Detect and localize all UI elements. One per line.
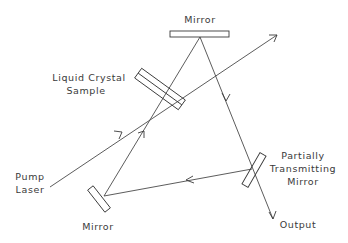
- pt-mirror-label-line1: Partially: [281, 150, 325, 161]
- pt-mirror-label-line2: Transmitting: [269, 163, 336, 174]
- optical-cavity-diagram: Mirror Liquid Crystal Sample Pump Laser …: [0, 0, 348, 243]
- crystal-label-line1: Liquid Crystal: [52, 72, 125, 83]
- bottom-mirror-label: Mirror: [82, 221, 114, 232]
- beam-top-to-output: [200, 37, 276, 219]
- pt-mirror-label-line3: Mirror: [287, 176, 319, 187]
- beam-crystal-top-mirror: [104, 37, 200, 196]
- pump-beam: [50, 35, 277, 187]
- output-label: Output: [280, 219, 317, 230]
- beam-pt-to-bottom: [104, 169, 252, 196]
- pump-label-line1: Pump: [15, 171, 44, 182]
- top-mirror-label: Mirror: [184, 14, 216, 25]
- top-mirror: [170, 31, 229, 37]
- pump-label-line2: Laser: [16, 184, 45, 195]
- bottom-mirror: [88, 186, 111, 212]
- crystal-label-line2: Sample: [66, 85, 105, 96]
